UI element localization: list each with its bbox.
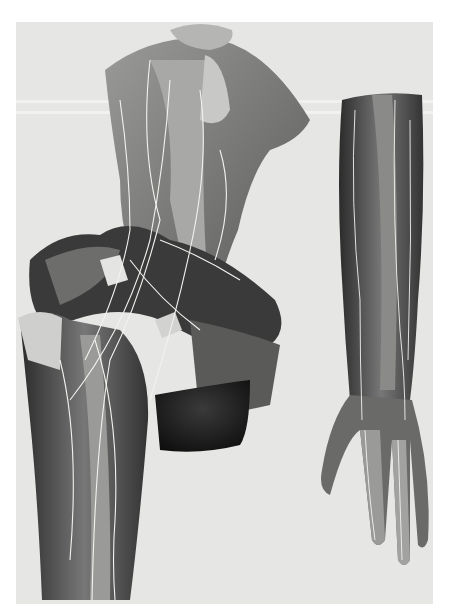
anatomy-illustration [0, 0, 449, 615]
forearm-figure [321, 93, 429, 565]
shoulder-figure [18, 24, 310, 600]
